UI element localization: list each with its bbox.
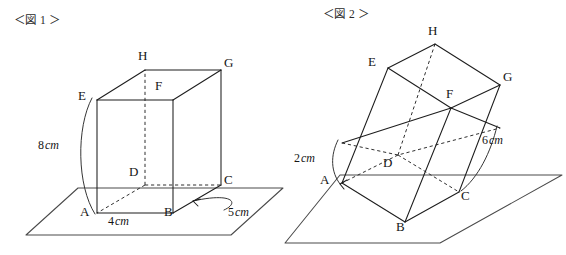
figure-2-left-depth-bracket <box>333 140 340 184</box>
figure-1-measure-width-unit: cm <box>114 214 129 228</box>
figure-1-edge-bc <box>173 185 221 213</box>
figure-2-vertex-label-b: B <box>396 219 405 235</box>
figure-1-vertex-label-c: C <box>224 172 233 188</box>
figure-2-edge-ef <box>388 68 451 108</box>
figure-2-measure-left: 2cm <box>294 151 315 166</box>
figure-2-vertex-label-f: F <box>446 86 453 102</box>
figure-board: ＜図 1 ＞ A B C D E F G H 8cm 4cm 5cm ＜図 2 … <box>0 0 566 255</box>
figure-2-level-plane-right <box>451 108 500 128</box>
figure-2-vertex-label-d: D <box>383 155 392 171</box>
figure-1-caption: ＜図 1 ＞ <box>14 11 61 27</box>
figure-1-hidden-edge-da <box>97 185 145 213</box>
figure-1-vertex-label-b: B <box>164 204 173 220</box>
figure-1-measure-depth-unit: cm <box>234 205 249 219</box>
figure-2-hidden-edge-dc <box>398 155 459 192</box>
figure-2-caption: ＜図 2 ＞ <box>323 5 370 21</box>
figure-2-vertex-label-a: A <box>320 172 329 188</box>
figure-2-edge-bf <box>405 108 451 222</box>
figure-1-height-bracket <box>81 98 95 214</box>
figure-1-measure-depth: 5cm <box>228 205 249 220</box>
figure-2-group <box>285 44 562 243</box>
figure-2-edge-ab <box>342 183 405 222</box>
figure-2-edge-bc <box>405 192 459 222</box>
figure-2-vertex-label-g: G <box>503 69 512 85</box>
figure-1-vertex-label-f: F <box>155 78 162 94</box>
figure-1-vertex-label-d: D <box>129 164 138 180</box>
figure-2-measure-right: 6cm <box>482 133 503 148</box>
figure-1-vertex-label-h: H <box>138 48 147 64</box>
figure-2-measure-left-unit: cm <box>300 151 315 165</box>
figure-2-edge-hg <box>435 44 500 85</box>
figure-1-vertex-label-e: E <box>78 88 86 104</box>
figure-2-level-plane-front <box>342 108 451 143</box>
figure-2-edge-eh <box>388 44 435 68</box>
figure-1-edge-fg <box>173 70 221 100</box>
figure-2-hidden-edge-dh <box>398 44 435 155</box>
figure-1-edge-eh <box>97 70 145 100</box>
figure-1-measure-height-unit: cm <box>44 138 59 152</box>
figure-2-hidden-edge-dd2 <box>342 128 500 155</box>
figure-2-vertex-label-h: H <box>428 23 437 39</box>
figure-2-edge-ae <box>342 68 388 183</box>
figure-2-measure-right-unit: cm <box>488 133 503 147</box>
figure-2-vertex-label-c: C <box>461 188 470 204</box>
figure-1-vertex-label-g: G <box>224 55 233 71</box>
figure-1-vertex-label-a: A <box>80 204 89 220</box>
figure-2-vertex-label-e: E <box>368 54 376 70</box>
figure-1-measure-width: 4cm <box>108 214 129 229</box>
figure-1-measure-height: 8cm <box>38 138 59 153</box>
